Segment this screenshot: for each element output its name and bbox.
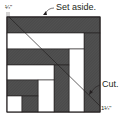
white-strip-3	[7, 65, 54, 80]
center-white-square	[7, 96, 22, 112]
right-dark-strip	[84, 33, 100, 112]
white-strip-1	[7, 33, 84, 49]
white-strip-2	[69, 49, 84, 112]
cut-label: Cut.	[102, 80, 119, 89]
dark-strip-3	[54, 65, 69, 112]
top-dark-strip	[7, 17, 100, 33]
set-aside-label: Set aside.	[56, 3, 96, 12]
bottom-measure-label: 1¼"	[101, 105, 111, 111]
top-measure-label: ¼"	[5, 4, 12, 10]
dark-strip-2	[7, 49, 69, 65]
dark-strip-4	[7, 80, 38, 96]
center-dark-square	[22, 96, 38, 112]
white-strip-4	[38, 80, 54, 112]
